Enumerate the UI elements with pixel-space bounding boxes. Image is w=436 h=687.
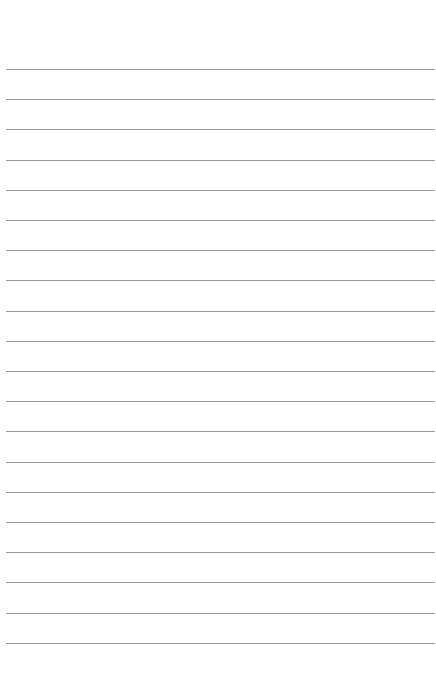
ruled-line [6,371,435,372]
ruled-line [6,280,435,281]
ruled-line [6,99,435,100]
lined-paper-page [0,0,436,687]
ruled-line [6,220,435,221]
ruled-line [6,160,435,161]
ruled-line [6,643,435,644]
ruled-line [6,492,435,493]
ruled-line [6,129,435,130]
ruled-line [6,522,435,523]
ruled-line [6,613,435,614]
ruled-line [6,341,435,342]
ruled-line [6,552,435,553]
ruled-line [6,311,435,312]
ruled-line [6,401,435,402]
ruled-line [6,69,435,70]
ruled-line [6,462,435,463]
ruled-line [6,250,435,251]
ruled-line [6,582,435,583]
ruled-line [6,190,435,191]
ruled-line [6,431,435,432]
